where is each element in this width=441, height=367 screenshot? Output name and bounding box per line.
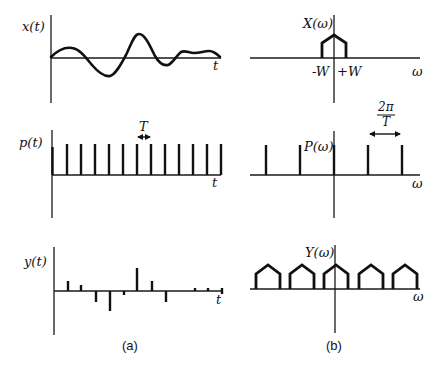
y-t-xlabel: t — [216, 292, 222, 307]
Y-w-xlabel: ω — [413, 289, 424, 304]
sampling-figure: x(t) t T p(t) t — [0, 0, 441, 367]
Y-w-ylabel: Y(ω) — [305, 245, 334, 260]
X-w-xlabel: ω — [412, 64, 423, 79]
p-t-impulses — [53, 144, 222, 175]
pos-band-label: +W — [337, 64, 363, 79]
p-t-xlabel: t — [212, 175, 218, 190]
p-t-ylabel: p(t) — [19, 135, 43, 150]
P-w-impulses — [266, 145, 402, 175]
panel-X-w: X(ω) -W +W ω — [250, 15, 423, 103]
caption-a: (a) — [122, 338, 138, 353]
x-t-xlabel: t — [213, 58, 219, 73]
panel-p-t: T p(t) t — [19, 119, 221, 218]
panel-Y-w: Y(ω) ω (b) — [250, 245, 424, 353]
caption-b: (b) — [326, 338, 342, 353]
panel-x-t: x(t) t — [22, 15, 221, 103]
spacing-denominator: T — [382, 115, 391, 129]
spacing-numerator: 2π — [377, 100, 395, 114]
x-t-ylabel: x(t) — [22, 19, 45, 34]
period-label: T — [139, 119, 149, 134]
panel-y-t: y(t) t (a) — [23, 247, 222, 353]
P-w-ylabel: P(ω) — [303, 139, 334, 154]
Y-w-replicas — [256, 265, 417, 289]
y-t-samples — [68, 268, 222, 311]
panel-P-w: 2π T P(ω) ω — [250, 100, 423, 218]
X-w-ylabel: X(ω) — [302, 16, 333, 31]
y-t-ylabel: y(t) — [23, 254, 47, 269]
x-t-curve — [51, 34, 220, 76]
neg-band-label: -W — [312, 64, 331, 79]
P-w-xlabel: ω — [412, 176, 423, 191]
